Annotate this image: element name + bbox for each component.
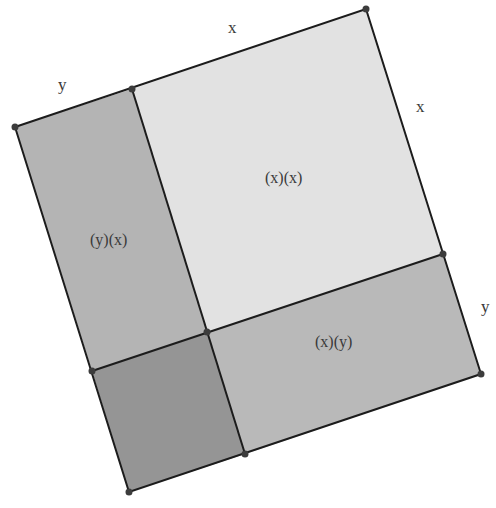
side-label-top-y: y [58, 75, 67, 94]
region-label-xx: (x)(x) [265, 169, 302, 187]
side-label-right-y: y [481, 297, 490, 316]
region-label-yx: (y)(x) [90, 231, 127, 249]
region-label-xy: (x)(y) [315, 333, 352, 351]
area-model-diagram: y x x y (x)(x) (y)(x) (x)(y) [0, 0, 496, 508]
side-label-right-x: x [416, 97, 425, 116]
side-label-top-x: x [228, 18, 237, 37]
